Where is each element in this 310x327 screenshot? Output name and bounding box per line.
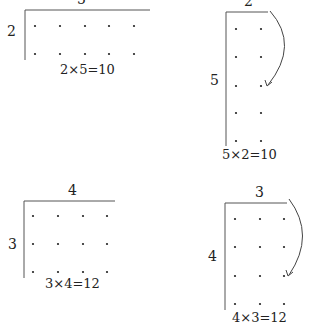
equation: 2×5=10	[60, 62, 115, 77]
dot-grid	[34, 25, 135, 55]
side-label: 4	[208, 248, 217, 264]
rotation-arrow-icon	[289, 199, 303, 275]
top-label: 4	[68, 182, 77, 198]
side-label: 3	[8, 236, 17, 252]
array-multiplication-diagram: 5 2 2×5=10 2 5 5×2=10 4 3	[0, 0, 310, 327]
side-label: 5	[210, 72, 219, 88]
array-top-left: 5 2 2×5=10	[7, 0, 150, 77]
rotation-arrow-icon	[268, 11, 285, 85]
array-bottom-left: 4 3 3×4=12	[8, 182, 115, 291]
equation: 3×4=12	[45, 276, 100, 291]
array-top-right: 2 5 5×2=10	[210, 0, 285, 162]
dot-grid	[234, 218, 285, 305]
equation: 4×3=12	[232, 310, 287, 325]
top-label: 2	[244, 0, 253, 9]
side-label: 2	[7, 23, 16, 39]
top-label: 3	[255, 184, 264, 200]
array-bottom-right: 3 4 4×3=12	[208, 184, 303, 325]
dot-grid	[32, 215, 108, 273]
top-label: 5	[77, 0, 86, 7]
dot-grid	[235, 28, 262, 142]
equation: 5×2=10	[222, 147, 277, 162]
